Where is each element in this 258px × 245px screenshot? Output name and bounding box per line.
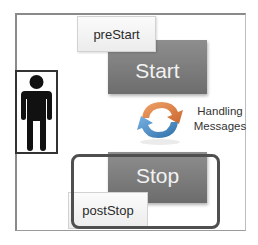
- prestart-hook: preStart: [77, 16, 156, 52]
- stop-phase-frame: [71, 154, 220, 229]
- person-icon: [17, 72, 56, 152]
- handling-line-1: Handling: [190, 104, 250, 119]
- rotation-arrows-icon: [132, 96, 188, 146]
- actor-frame: [15, 70, 58, 154]
- handling-messages-label: Handling Messages: [190, 104, 250, 134]
- handling-line-2: Messages: [190, 119, 250, 134]
